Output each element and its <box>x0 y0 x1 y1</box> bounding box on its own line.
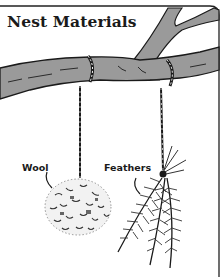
frame-border <box>0 6 219 277</box>
feathers-label: Feathers <box>104 162 151 173</box>
wool-label: Wool <box>22 162 48 173</box>
nest-materials-illustration <box>0 0 222 277</box>
page-title: Nest Materials <box>7 12 137 31</box>
wool-icon <box>45 172 111 235</box>
wool-pointer-arrow <box>46 172 52 188</box>
feathers-pointer-arrow <box>135 178 140 194</box>
illustration-frame <box>0 0 222 277</box>
